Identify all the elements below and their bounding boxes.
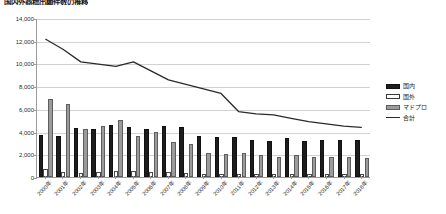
x-axis-tick-label: 2016年: [316, 179, 334, 197]
x-axis-tick-label: 2006年: [141, 179, 159, 197]
x-axis-tick-label: 2012年: [246, 179, 264, 197]
x-axis-tick-label: 2008年: [176, 179, 194, 197]
legend-label-kokugai: 国外: [403, 94, 415, 100]
x-axis-tick-mark: [45, 176, 46, 179]
legend-label-madopro: マドプロ: [403, 104, 427, 110]
x-axis-tick-mark: [273, 176, 274, 179]
y-axis-tick-label: 10,000: [16, 61, 34, 67]
total-line-series: [37, 19, 370, 177]
y-axis-tick-label: 6,000: [19, 107, 34, 113]
chart-legend: 国内 国外 マドプロ 合計: [386, 83, 427, 121]
x-axis-tick-label: 2015年: [299, 179, 317, 197]
x-axis-tick-mark: [133, 176, 134, 179]
x-axis-tick-mark: [326, 176, 327, 179]
x-axis-tick-mark: [80, 176, 81, 179]
x-axis-tick-label: 2013年: [264, 179, 282, 197]
x-axis-tick-label: 2001年: [53, 179, 71, 197]
x-axis-tick-label: 2007年: [158, 179, 176, 197]
legend-item-kokugai: 国外: [386, 94, 427, 100]
x-axis-tick-label: 2018年: [352, 179, 370, 197]
legend-label-kokunai: 国内: [403, 83, 415, 89]
x-axis: 2000年2001年2002年2003年2004年2005年2006年2007年…: [36, 179, 370, 214]
y-axis-tick-label: 4,000: [19, 130, 34, 136]
x-axis-tick-label: 2002年: [70, 179, 88, 197]
y-axis-tick-label: 12,000: [16, 39, 34, 45]
legend-swatch-kokunai: [386, 84, 400, 89]
x-axis-tick-mark: [221, 176, 222, 179]
x-axis-tick-mark: [308, 176, 309, 179]
x-axis-tick-mark: [238, 176, 239, 179]
x-axis-tick-label: 2009年: [193, 179, 211, 197]
x-axis-tick-label: 2005年: [123, 179, 141, 197]
x-axis-tick-label: 2000年: [35, 179, 53, 197]
x-axis-tick-label: 2011年: [229, 179, 247, 197]
legend-swatch-kokugai: [386, 94, 400, 99]
legend-item-madopro: マドプロ: [386, 104, 427, 110]
x-axis-tick-mark: [203, 176, 204, 179]
chart-title: 国内外商標出願件数の推移: [4, 0, 88, 5]
y-axis-tick-label: 2,000: [19, 152, 34, 158]
y-axis-tick-label: 14,000: [16, 16, 34, 22]
x-axis-tick-mark: [62, 176, 63, 179]
x-axis-tick-mark: [168, 176, 169, 179]
x-axis-tick-mark: [344, 176, 345, 179]
x-axis-tick-mark: [98, 176, 99, 179]
legend-label-goukei: 合計: [403, 115, 415, 121]
legend-swatch-madopro: [386, 105, 400, 110]
legend-item-kokunai: 国内: [386, 83, 427, 89]
legend-swatch-goukei: [386, 117, 400, 118]
x-axis-tick-label: 2017年: [334, 179, 352, 197]
x-axis-tick-label: 2003年: [88, 179, 106, 197]
x-axis-tick-mark: [256, 176, 257, 179]
x-axis-tick-label: 2014年: [281, 179, 299, 197]
x-axis-tick-mark: [115, 176, 116, 179]
x-axis-tick-mark: [361, 176, 362, 179]
y-axis-tick-label: 8,000: [19, 84, 34, 90]
x-axis-tick-mark: [185, 176, 186, 179]
x-axis-tick-mark: [150, 176, 151, 179]
plot-area: 02,0004,0006,0008,00010,00012,00014,000: [36, 19, 370, 178]
legend-item-goukei: 合計: [386, 115, 427, 121]
x-axis-tick-label: 2004年: [105, 179, 123, 197]
total-line-path: [46, 39, 361, 127]
chart-container: 国内外商標出願件数の推移 02,0004,0006,0008,00010,000…: [0, 0, 446, 214]
x-axis-tick-label: 2010年: [211, 179, 229, 197]
x-axis-tick-mark: [291, 176, 292, 179]
